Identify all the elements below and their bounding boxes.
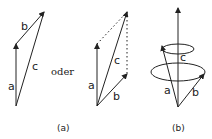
vector-b-arrow <box>178 74 204 107</box>
label-b: b <box>21 20 28 33</box>
caption-b: (b) <box>172 123 185 133</box>
caption-a: (a) <box>57 123 70 133</box>
parallelogram-construction: a b c <box>88 12 127 106</box>
vector-addition-diagram: a b c oder a b c (a) a b c (b) <box>0 0 212 139</box>
label-a: a <box>164 84 171 97</box>
label-a: a <box>8 80 15 93</box>
precession-diagram: a b c <box>151 8 205 107</box>
label-b: b <box>192 86 199 99</box>
label-c: c <box>32 60 38 73</box>
label-c: c <box>114 54 120 67</box>
triangle-construction: a b c <box>8 12 44 106</box>
vector-c-arrow <box>97 12 127 106</box>
label-b: b <box>113 90 120 103</box>
vector-b-arrow <box>97 74 127 106</box>
label-a: a <box>88 79 95 92</box>
connector-word: oder <box>51 66 74 77</box>
dotted-edge-top <box>97 12 127 44</box>
vector-a-arrow <box>162 46 178 107</box>
label-c: c <box>180 51 186 64</box>
